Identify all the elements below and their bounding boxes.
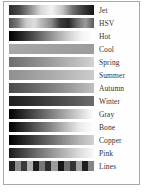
- colormap-label: Bone: [94, 123, 139, 132]
- colormap-row: Cool: [4, 43, 139, 55]
- colormap-row: Gray: [4, 108, 139, 120]
- colorbar-lines: [9, 161, 94, 171]
- colormap-row: Winter: [4, 95, 139, 107]
- colormap-label: Autumn: [94, 84, 139, 93]
- colorbar-jet: [9, 5, 94, 15]
- colormap-row: Summer: [4, 69, 139, 81]
- colorbar-autumn: [9, 83, 94, 93]
- colorbar-hot: [9, 31, 94, 41]
- colorbar-spring: [9, 57, 94, 67]
- colormap-row: Autumn: [4, 82, 139, 94]
- colormap-row: HSV: [4, 17, 139, 29]
- colormap-label: Hot: [94, 32, 139, 41]
- colormap-row: Jet: [4, 4, 139, 16]
- colormap-label: Gray: [94, 110, 139, 119]
- colormap-list: JetHSVHotCoolSpringSummerAutumnWinterGra…: [4, 4, 139, 172]
- colorbar-summer: [9, 70, 94, 80]
- colormap-row: Lines: [4, 160, 139, 172]
- colormap-label: Spring: [94, 58, 139, 67]
- colorbar-pink: [9, 148, 94, 158]
- colormap-label: Winter: [94, 97, 139, 106]
- colorbar-copper: [9, 135, 94, 145]
- colormap-label: Cool: [94, 45, 139, 54]
- colormap-label: Copper: [94, 136, 139, 145]
- colormap-label: Jet: [94, 6, 139, 15]
- colormap-row: Copper: [4, 134, 139, 146]
- colormap-row: Spring: [4, 56, 139, 68]
- colorbar-gray: [9, 109, 94, 119]
- colorbar-bone: [9, 122, 94, 132]
- colormap-row: Pink: [4, 147, 139, 159]
- colormap-label: HSV: [94, 19, 139, 28]
- colormap-label: Summer: [94, 71, 139, 80]
- colorbar-winter: [9, 96, 94, 106]
- colormap-figure: JetHSVHotCoolSpringSummerAutumnWinterGra…: [3, 1, 140, 185]
- colormap-label: Pink: [94, 149, 139, 158]
- colormap-row: Bone: [4, 121, 139, 133]
- colormap-label: Lines: [94, 162, 139, 171]
- colorbar-cool: [9, 44, 94, 54]
- colorbar-hsv: [9, 18, 94, 28]
- colormap-row: Hot: [4, 30, 139, 42]
